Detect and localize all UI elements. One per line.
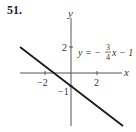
y-tick-label-2: 2	[62, 42, 67, 53]
y-axis-label: y	[67, 7, 73, 19]
graph: y x −2 2 2 −1 y = − 3 4 x − 1	[0, 0, 136, 132]
equation-numerator: 3	[106, 43, 110, 52]
equation-label: y = − 3 4 x − 1	[77, 43, 133, 62]
x-tick-label-2: 2	[94, 77, 99, 88]
equation-denominator: 4	[106, 53, 110, 62]
equation-lhs: y = −	[77, 47, 101, 58]
y-tick-label-neg1: −1	[58, 86, 69, 97]
x-tick-label-neg2: −2	[37, 77, 48, 88]
equation-rhs: x − 1	[111, 47, 133, 58]
x-axis-label: x	[123, 66, 129, 78]
